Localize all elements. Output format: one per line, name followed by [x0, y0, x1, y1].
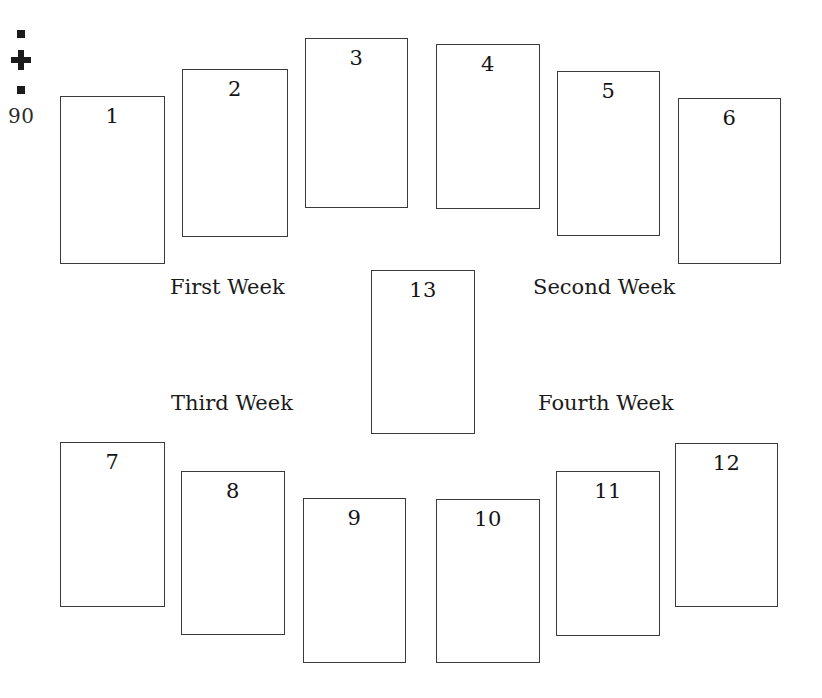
card-number: 7 [61, 451, 164, 474]
card[interactable]: 13 [371, 270, 475, 434]
ornament-square-top-icon [17, 30, 25, 38]
card[interactable]: 9 [303, 498, 406, 663]
card-number: 1 [61, 105, 164, 128]
card[interactable]: 4 [436, 44, 540, 209]
card-number: 13 [372, 279, 474, 302]
card[interactable]: 11 [556, 471, 660, 636]
card[interactable]: 6 [678, 98, 781, 264]
card[interactable]: 7 [60, 442, 165, 607]
card[interactable]: 12 [675, 443, 778, 607]
card-number: 8 [182, 480, 284, 503]
ornament-cross-icon [11, 50, 31, 70]
card[interactable]: 5 [557, 71, 660, 236]
ornament-square-bottom-icon [17, 86, 25, 94]
card-number: 4 [437, 53, 539, 76]
card[interactable]: 2 [182, 69, 288, 237]
card-number: 11 [557, 480, 659, 503]
card[interactable]: 10 [436, 499, 540, 663]
week-label: Third Week [171, 392, 293, 415]
card-number: 3 [306, 47, 407, 70]
page-number: 90 [8, 106, 34, 126]
card-number: 10 [437, 508, 539, 531]
week-label: Fourth Week [538, 392, 674, 415]
card-number: 2 [183, 78, 287, 101]
card[interactable]: 1 [60, 96, 165, 264]
card-number: 6 [679, 107, 780, 130]
week-label: First Week [170, 276, 285, 299]
card-number: 12 [676, 452, 777, 475]
week-label: Second Week [533, 276, 675, 299]
square-cross-square-ornament [8, 28, 34, 100]
card[interactable]: 3 [305, 38, 408, 208]
card[interactable]: 8 [181, 471, 285, 635]
card-number: 5 [558, 80, 659, 103]
spread-page: 90 12345678910111213 First WeekSecond We… [0, 0, 822, 698]
card-number: 9 [304, 507, 405, 530]
